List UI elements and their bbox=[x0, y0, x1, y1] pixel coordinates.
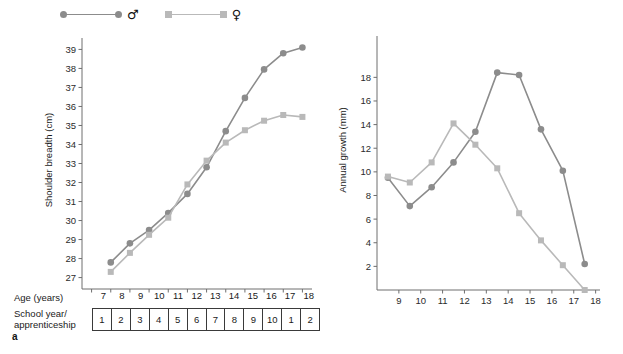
legend-symbol-female: ♀ bbox=[232, 8, 242, 21]
xtick-13: 13 bbox=[481, 295, 492, 306]
datapoint-female-12.5 bbox=[472, 142, 478, 148]
series-line-male bbox=[388, 73, 585, 264]
ytick-36: 36 bbox=[65, 101, 76, 112]
ytick-28: 28 bbox=[65, 253, 76, 264]
datapoint-female-14 bbox=[223, 140, 229, 146]
xtick-16: 16 bbox=[547, 295, 558, 306]
school-year-cell-0: 1 bbox=[93, 309, 112, 330]
xtick-14: 14 bbox=[503, 295, 514, 306]
xtick-18: 18 bbox=[590, 295, 601, 306]
y-axis-title: Shoulder breadth (cm) bbox=[43, 113, 54, 208]
series-line-male bbox=[111, 48, 303, 263]
datapoint-female-17 bbox=[280, 112, 286, 118]
school-year-cell-2: 3 bbox=[131, 309, 150, 330]
y-axis-title: Annual growth (mm) bbox=[337, 107, 348, 193]
datapoint-female-14.5 bbox=[516, 210, 522, 216]
datapoint-female-10.5 bbox=[429, 159, 435, 165]
ytick-4: 4 bbox=[366, 237, 371, 248]
school-year-cell-3: 4 bbox=[150, 309, 169, 330]
school-year-cell-7: 8 bbox=[225, 309, 244, 330]
age-tick-labels: 789101112131415161718 bbox=[94, 290, 318, 301]
panel-letter-a: a bbox=[12, 331, 18, 342]
school-year-cell-4: 5 bbox=[169, 309, 188, 330]
ytick-35: 35 bbox=[65, 120, 76, 131]
school-year-cell-10: 1 bbox=[282, 309, 301, 330]
legend-swatch-female bbox=[165, 9, 227, 21]
figure-root: ♂ ♀ 27282930313233343536373839Shoulder b… bbox=[0, 0, 623, 354]
age-tick-13: 13 bbox=[206, 290, 225, 301]
datapoint-female-13 bbox=[204, 158, 210, 164]
ytick-29: 29 bbox=[65, 234, 76, 245]
ytick-16: 16 bbox=[360, 95, 371, 106]
datapoint-female-16.5 bbox=[560, 262, 566, 268]
legend-symbol-male: ♂ bbox=[127, 8, 139, 21]
datapoint-male-18 bbox=[299, 44, 306, 51]
datapoint-female-9.5 bbox=[407, 179, 413, 185]
age-row-label: Age (years) bbox=[14, 292, 63, 303]
legend-line-male bbox=[64, 14, 118, 16]
ytick-37: 37 bbox=[65, 82, 76, 93]
ytick-39: 39 bbox=[65, 44, 76, 55]
school-year-cell-5: 6 bbox=[188, 309, 207, 330]
age-tick-9: 9 bbox=[131, 290, 150, 301]
legend-marker-male-left bbox=[60, 11, 67, 18]
school-year-cell-8: 9 bbox=[244, 309, 263, 330]
school-row-label: School year/ apprenticeship bbox=[14, 308, 94, 330]
datapoint-female-11.5 bbox=[451, 120, 457, 126]
xtick-10: 10 bbox=[415, 295, 426, 306]
datapoint-female-17.5 bbox=[582, 287, 588, 293]
chart-panel-b: 246810121416189101112131415161718Annual … bbox=[320, 0, 623, 320]
ytick-38: 38 bbox=[65, 63, 76, 74]
xtick-12: 12 bbox=[459, 295, 470, 306]
datapoint-male-15 bbox=[242, 95, 249, 102]
chart-panel-a: 27282930313233343536373839Shoulder bread… bbox=[0, 0, 330, 300]
legend: ♂ ♀ bbox=[60, 8, 241, 21]
datapoint-male-12.5 bbox=[472, 128, 479, 135]
age-tick-8: 8 bbox=[113, 290, 132, 301]
ytick-12: 12 bbox=[360, 143, 371, 154]
datapoint-male-11.5 bbox=[450, 159, 457, 166]
series-line-female bbox=[388, 123, 585, 290]
panel-b: 246810121416189101112131415161718Annual … bbox=[320, 0, 623, 354]
legend-marker-female-left bbox=[165, 11, 172, 18]
datapoint-female-9 bbox=[127, 250, 133, 256]
legend-line-female bbox=[169, 14, 223, 16]
datapoint-male-9 bbox=[127, 240, 134, 247]
school-year-cell-1: 2 bbox=[112, 309, 131, 330]
age-tick-18: 18 bbox=[299, 290, 318, 301]
school-row-label-line1: School year/ bbox=[14, 308, 67, 319]
datapoint-male-17 bbox=[280, 50, 287, 57]
xtick-9: 9 bbox=[396, 295, 401, 306]
ytick-10: 10 bbox=[360, 166, 371, 177]
xtick-15: 15 bbox=[525, 295, 536, 306]
datapoint-male-8 bbox=[107, 259, 114, 266]
school-year-cells: 1234567891012 bbox=[92, 308, 320, 331]
datapoint-female-10 bbox=[146, 232, 152, 238]
datapoint-male-14 bbox=[222, 128, 229, 135]
school-year-cell-6: 7 bbox=[207, 309, 226, 330]
ytick-6: 6 bbox=[366, 214, 371, 225]
age-row: Age (years) 789101112131415161718 bbox=[14, 290, 314, 306]
panel-a: ♂ ♀ 27282930313233343536373839Shoulder b… bbox=[0, 0, 330, 354]
legend-item-female: ♀ bbox=[165, 8, 242, 21]
ytick-30: 30 bbox=[65, 215, 76, 226]
school-row-label-line2: apprenticeship bbox=[14, 319, 76, 330]
legend-marker-male-right bbox=[115, 11, 122, 18]
datapoint-male-10.5 bbox=[428, 184, 435, 191]
datapoint-male-14.5 bbox=[516, 72, 523, 79]
age-tick-11: 11 bbox=[169, 290, 188, 301]
series-line-female bbox=[111, 115, 303, 272]
datapoint-female-8 bbox=[108, 269, 114, 275]
school-year-cell-11: 2 bbox=[301, 309, 319, 330]
age-tick-16: 16 bbox=[262, 290, 281, 301]
ytick-33: 33 bbox=[65, 158, 76, 169]
age-tick-10: 10 bbox=[150, 290, 169, 301]
legend-marker-female-right bbox=[220, 11, 227, 18]
school-year-row: School year/ apprenticeship 123456789101… bbox=[14, 308, 314, 332]
datapoint-male-16 bbox=[261, 66, 268, 73]
ytick-18: 18 bbox=[360, 72, 371, 83]
ytick-2: 2 bbox=[366, 261, 371, 272]
age-tick-14: 14 bbox=[225, 290, 244, 301]
age-tick-12: 12 bbox=[187, 290, 206, 301]
datapoint-female-13.5 bbox=[494, 165, 500, 171]
